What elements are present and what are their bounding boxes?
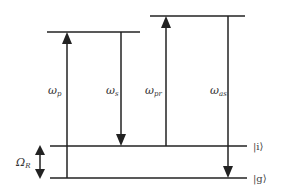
pump-label: ωp [48,84,62,98]
stokes-label: ωs [106,84,119,98]
stokes-transition-arrow [116,32,126,146]
anti-stokes-label: ωas [210,84,227,98]
energy-level-diagram: ωp ωs ωpr ωas ΩR |i⟩ |g⟩ [0,0,281,193]
probe-transition-arrow [161,16,171,146]
raman-shift-double-arrow [35,145,45,179]
probe-label: ωpr [145,84,162,98]
intermediate-level-label: |i⟩ [253,141,264,153]
ground-level-label: |g⟩ [253,173,267,185]
raman-shift-label: ΩR [15,156,31,170]
pump-transition-arrow [62,32,72,178]
